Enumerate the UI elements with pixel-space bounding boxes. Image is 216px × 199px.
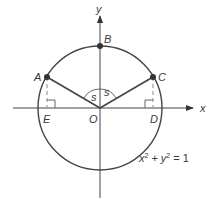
eq-rhs: = 1 bbox=[173, 152, 189, 164]
point-d-label: D bbox=[150, 113, 158, 125]
right-angle-marker-e bbox=[47, 100, 55, 108]
eq-y-exp: 2 bbox=[166, 152, 170, 159]
y-axis-label: y bbox=[95, 3, 103, 15]
point-a-label: A bbox=[33, 71, 41, 83]
point-b-label: B bbox=[104, 33, 111, 45]
point-o-label: O bbox=[89, 113, 98, 125]
point-b bbox=[97, 43, 103, 49]
eq-x-exp: 2 bbox=[145, 152, 149, 159]
unit-circle-diagram: y x B A C E O D s s x2+y2= 1 bbox=[0, 0, 216, 199]
point-c bbox=[150, 74, 156, 80]
eq-plus: + bbox=[151, 152, 157, 164]
angle-label-right: s bbox=[104, 86, 110, 98]
point-a bbox=[44, 74, 50, 80]
angle-label-left: s bbox=[91, 91, 97, 103]
circle-equation: x2+y2= 1 bbox=[138, 152, 189, 164]
point-e-label: E bbox=[43, 113, 51, 125]
point-c-label: C bbox=[158, 71, 166, 83]
right-angle-marker-d bbox=[145, 100, 153, 108]
x-axis-label: x bbox=[199, 102, 206, 114]
